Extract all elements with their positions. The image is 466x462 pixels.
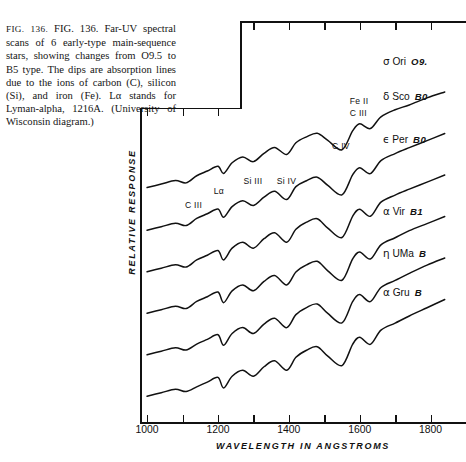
- star-label-vir: α VirB1: [383, 205, 423, 217]
- figure-number: FIG. 136.: [6, 24, 48, 34]
- star-constellation: UMa: [390, 248, 414, 259]
- star-spectral-type: O9.: [411, 56, 428, 67]
- star-greek-letter: η: [383, 247, 390, 259]
- absorption-line-label-si-iv: Si IV: [277, 176, 297, 186]
- absorption-line-label-c-iv: C IV: [332, 141, 350, 151]
- star-greek-letter: α: [383, 286, 390, 298]
- star-label-sco: δ ScoB0: [383, 90, 428, 102]
- x-axis-tick-label: 1600: [348, 424, 371, 435]
- x-axis-tick-label: 1200: [206, 424, 229, 435]
- star-constellation: Ori: [390, 56, 406, 67]
- figure-page: FIG. 136. FIG. 136. Far-UV spectral scan…: [0, 0, 466, 462]
- star-label-per: ϵ PerB0: [383, 133, 426, 145]
- absorption-line-label-c-iii-high: C III: [350, 108, 367, 118]
- star-label-uma: η UMaB: [383, 247, 426, 259]
- star-label-gru: α GruB: [383, 286, 422, 298]
- star-spectral-type: B: [415, 287, 422, 298]
- star-spectral-type: B0: [415, 91, 428, 102]
- star-spectral-type: B: [419, 248, 426, 259]
- star-constellation: Vir: [390, 206, 405, 217]
- plot-area: 10001200140016001800 WAVELENGTH IN ANGST…: [140, 0, 466, 424]
- x-axis-tick-label: 1400: [277, 424, 300, 435]
- absorption-line-label-lyman-alpha: Lα: [214, 186, 224, 196]
- x-axis-tick-label: 1000: [136, 424, 159, 435]
- star-constellation: Gru: [390, 287, 410, 298]
- star-label-ori: σ OriO9.: [383, 55, 428, 67]
- absorption-line-label-si-iii: Si III: [243, 176, 262, 186]
- star-spectral-type: B1: [410, 206, 423, 217]
- absorption-line-label-c-iii-low: C III: [185, 200, 202, 210]
- star-constellation: Per: [389, 134, 408, 145]
- absorption-line-label-fe-ii: Fe II: [350, 96, 369, 106]
- y-axis-title: RELATIVE RESPONSE: [127, 149, 137, 274]
- star-greek-letter: σ: [383, 55, 390, 67]
- star-spectral-type: B0: [413, 134, 426, 145]
- spectral-trace: [147, 217, 445, 314]
- x-axis-title: WAVELENGTH IN ANGSTROMS: [216, 441, 390, 451]
- star-constellation: Sco: [389, 91, 409, 102]
- x-axis-tick-label: 1800: [419, 424, 442, 435]
- star-greek-letter: α: [383, 205, 390, 217]
